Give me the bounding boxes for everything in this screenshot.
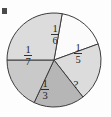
- pie-chart-figure: 1615?1317: [0, 0, 111, 117]
- slice-one-third-denominator: 3: [42, 90, 47, 101]
- slice-one-third-numerator: 1: [42, 78, 47, 89]
- slice-one-seventh-denominator: 7: [25, 56, 30, 67]
- slice-one-seventh-numerator: 1: [25, 44, 30, 55]
- slice-one-fifth-numerator: 1: [75, 42, 80, 53]
- slice-one-sixth-denominator: 6: [52, 35, 57, 46]
- slice-one-sixth-numerator: 1: [52, 23, 57, 34]
- pie-chart-svg: 1615?1317: [0, 0, 111, 117]
- slice-unknown-label: ?: [74, 78, 79, 90]
- slice-one-fifth-denominator: 5: [75, 54, 80, 65]
